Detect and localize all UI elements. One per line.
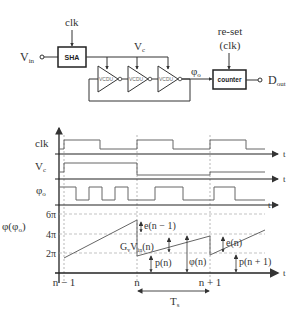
svg-text:VCDU: VCDU: [129, 76, 144, 82]
timing-clk-label: clk: [35, 137, 49, 149]
svg-text:VCDU: VCDU: [159, 76, 174, 82]
phase-ylabel: φ(φo): [2, 220, 26, 234]
vin-label: Vin: [20, 50, 35, 65]
svg-text:n: n: [134, 276, 140, 288]
phi-o-label: φo: [191, 65, 201, 79]
timing-vc-label: Vc: [35, 160, 46, 174]
e-prev-label: e(n − 1): [144, 220, 176, 232]
diagram-canvas: Vin clk SHA Vc VCDU VCDU: [0, 0, 304, 319]
counter-label: counter: [218, 76, 242, 83]
period-label: Ts: [170, 295, 180, 309]
circuit-block-diagram: Vin clk SHA Vc VCDU VCDU: [20, 16, 286, 101]
clk-waveform: [59, 140, 265, 149]
vcdu-1: VCDU: [98, 66, 122, 92]
vin-terminal: [40, 55, 44, 59]
svg-text:6π: 6π: [46, 209, 56, 220]
p-n-label: p(n): [155, 257, 172, 269]
vc-waveform: [59, 163, 265, 175]
dout-terminal: [258, 78, 262, 82]
svg-text:t: t: [283, 268, 286, 278]
dout-label: Dout: [268, 73, 286, 88]
svg-text:n + 1: n + 1: [199, 276, 222, 288]
clk-label: clk: [65, 16, 79, 28]
svg-text:n − 1: n − 1: [53, 276, 76, 288]
timing-diagram: clk t Vc t φo t φ(φo) 6π 4π 2π t e(n − 1…: [2, 128, 286, 309]
svg-text:2π: 2π: [46, 248, 56, 259]
reset-clk-label: (clk): [220, 39, 241, 52]
svg-text:t: t: [283, 174, 286, 184]
sha-label: SHA: [65, 54, 80, 61]
e-n-label: e(n): [226, 237, 242, 249]
svg-text:VCDU: VCDU: [99, 76, 114, 82]
vc-label: Vc: [134, 40, 145, 54]
p-next-label: p(n + 1): [239, 256, 271, 268]
reset-label: re-set: [218, 25, 242, 37]
vcdu-2: VCDU: [128, 66, 152, 92]
gv-vin-label: GvVin(n): [120, 241, 154, 253]
phi-waveform: [59, 187, 265, 200]
svg-text:t: t: [283, 149, 286, 159]
phi-n-label: φ(n): [189, 256, 206, 268]
svg-text:4π: 4π: [46, 229, 56, 240]
timing-phi-label: φo: [36, 184, 46, 198]
vcdu-3: VCDU: [158, 66, 182, 92]
